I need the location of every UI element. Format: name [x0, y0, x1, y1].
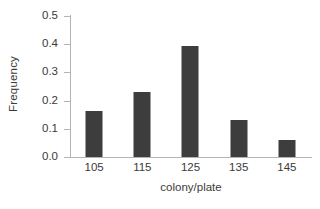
y-tick-label: 0.5 [8, 10, 58, 22]
y-tick-label: 0.2 [8, 95, 58, 107]
x-axis-title: colony/plate [70, 181, 312, 193]
bar-slot [70, 16, 118, 157]
y-tick-mark [64, 157, 70, 158]
bar-slot [118, 16, 166, 157]
y-tick-label: 0.3 [8, 67, 58, 79]
bar-slot [263, 16, 311, 157]
bar-slot [166, 16, 214, 157]
bar [86, 111, 103, 157]
x-axis-line [70, 157, 312, 158]
y-tick-label: 0.1 [8, 123, 58, 135]
bar [182, 46, 199, 157]
bar [134, 92, 151, 157]
bar-chart-figure: Frequency 0.00.10.20.30.40.5 10511512513… [0, 0, 320, 209]
bar-slot [215, 16, 263, 157]
y-axis-title: Frequency [2, 0, 24, 168]
x-tick-label: 145 [257, 162, 317, 174]
y-tick-label: 0.0 [8, 151, 58, 163]
y-tick-label: 0.4 [8, 38, 58, 50]
plot-area [70, 16, 311, 157]
bar [278, 140, 295, 157]
bar [230, 120, 247, 157]
